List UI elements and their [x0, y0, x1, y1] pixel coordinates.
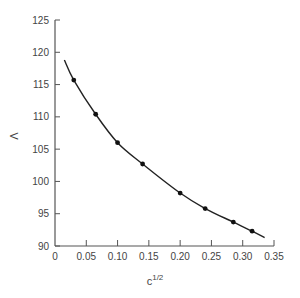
- x-axis-label: c1/2: [147, 273, 164, 287]
- data-points: [71, 78, 254, 234]
- x-tick-label: 0.10: [108, 251, 128, 262]
- chart: 909510010511011512012500.050.100.150.200…: [0, 0, 300, 298]
- data-point: [93, 112, 98, 117]
- tick-marks: [55, 20, 274, 246]
- y-tick-label: 125: [32, 15, 49, 26]
- y-tick-label: 100: [32, 176, 49, 187]
- y-tick-label: 105: [32, 144, 49, 155]
- x-tick-label: 0.05: [77, 251, 97, 262]
- data-point: [140, 162, 145, 167]
- y-tick-label: 110: [33, 111, 49, 122]
- data-point: [115, 140, 120, 145]
- x-tick-label: 0.20: [170, 251, 190, 262]
- tick-labels: 909510010511011512012500.050.100.150.200…: [32, 15, 284, 263]
- data-point: [231, 220, 236, 225]
- x-tick-label: 0.15: [139, 251, 159, 262]
- x-tick-label: 0.35: [264, 251, 284, 262]
- data-point: [178, 191, 183, 196]
- y-axis-label: Λ: [8, 132, 20, 140]
- x-tick-label: 0.25: [202, 251, 222, 262]
- y-tick-label: 120: [32, 47, 49, 58]
- fit-curve: [64, 60, 264, 238]
- axes: [55, 20, 274, 246]
- data-point: [71, 78, 76, 83]
- y-tick-label: 90: [38, 241, 50, 252]
- x-tick-label: 0: [52, 251, 58, 262]
- y-tick-label: 95: [38, 208, 50, 219]
- x-tick-label: 0.30: [233, 251, 253, 262]
- data-point: [250, 229, 255, 234]
- y-tick-label: 115: [33, 79, 49, 90]
- data-point: [203, 206, 208, 211]
